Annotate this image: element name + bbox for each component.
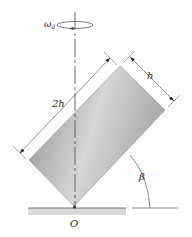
omega-label: ω0	[44, 19, 55, 30]
rectangular-block	[29, 66, 165, 206]
pivot-point	[73, 205, 76, 208]
pivot-label: O	[70, 218, 78, 229]
ground-hatch	[28, 208, 126, 215]
ground	[28, 208, 178, 215]
length-2h-label: 2h	[51, 98, 65, 109]
angle-beta-label: β	[138, 171, 145, 182]
rotating-block-diagram: ω0 2h h β O	[0, 0, 192, 237]
length-h-label: h	[147, 70, 153, 81]
